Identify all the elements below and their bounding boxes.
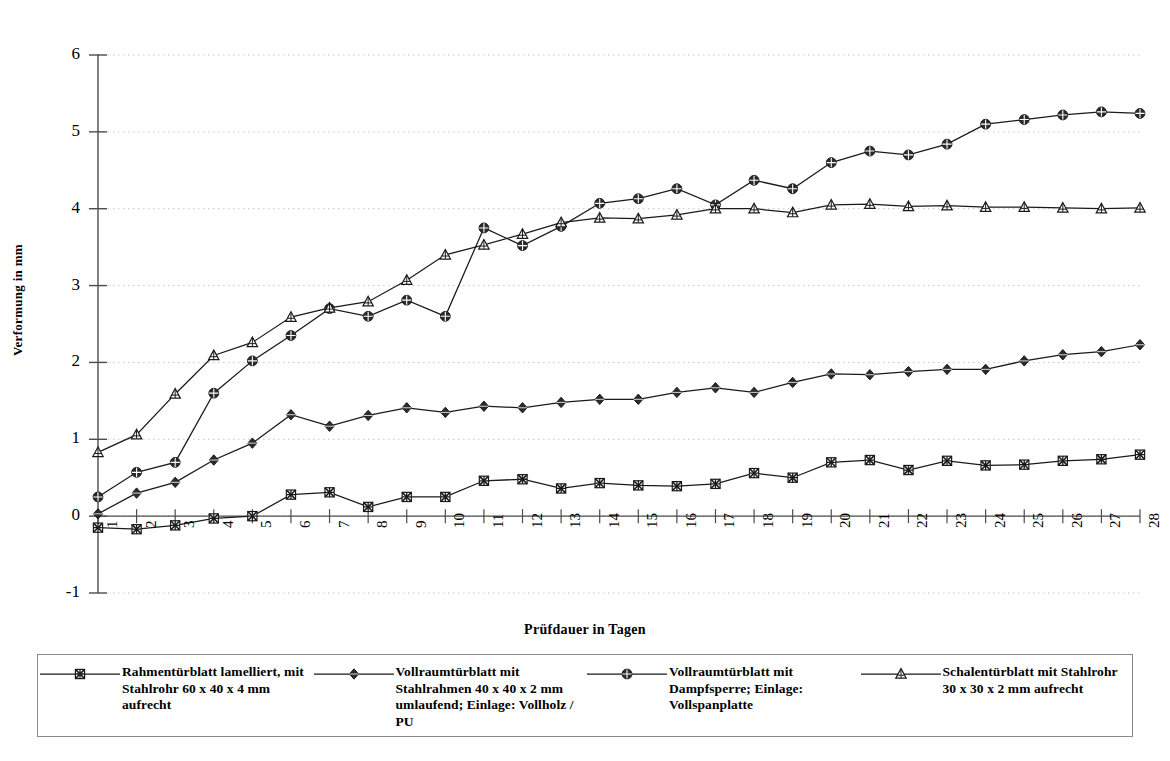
data-point-circle <box>749 175 759 185</box>
data-point-circle <box>904 150 914 160</box>
y-axis-tick-label: -1 <box>52 582 80 602</box>
data-point-diamond <box>749 387 758 397</box>
x-axis-tick-label: 11 <box>490 514 507 528</box>
data-point-diamond <box>364 410 373 420</box>
x-axis-tick-label: 1 <box>104 521 121 529</box>
data-point-square <box>479 476 488 485</box>
data-point-diamond <box>479 401 488 411</box>
data-point-circle <box>865 146 875 156</box>
data-point-circle <box>479 223 489 233</box>
data-point-square <box>325 488 334 497</box>
y-axis-tick-label: 2 <box>52 351 80 371</box>
x-axis-tick-label: 18 <box>760 513 777 528</box>
data-point-diamond <box>93 509 102 519</box>
chart-legend: Rahmentürblatt lamelliert, mit Stahlrohr… <box>37 654 1133 737</box>
x-axis-tick-label: 8 <box>374 521 391 529</box>
data-point-square <box>75 669 84 678</box>
data-point-square <box>132 525 141 534</box>
data-point-circle <box>247 356 257 366</box>
data-point-square <box>1058 456 1067 465</box>
data-point-circle <box>1097 107 1107 117</box>
legend-marker-square-icon <box>38 666 122 682</box>
x-axis-tick-label: 23 <box>953 513 970 528</box>
data-point-circle <box>363 311 373 321</box>
legend-item: Rahmentürblatt lamelliert, mit Stahlrohr… <box>38 655 312 714</box>
x-axis-tick-label: 4 <box>220 521 237 529</box>
data-point-diamond <box>672 387 681 397</box>
legend-marker-diamond-icon <box>312 666 396 682</box>
x-axis-tick-label: 21 <box>876 513 893 528</box>
data-point-circle <box>1135 109 1145 119</box>
x-axis-tick-label: 27 <box>1107 513 1124 528</box>
data-point-square <box>557 484 566 493</box>
data-point-square <box>1135 450 1144 459</box>
data-point-circle <box>132 467 142 477</box>
legend-item: Vollraumtürblatt mit Dampfsperre; Einlag… <box>585 655 859 714</box>
legend-item: Schalentürblatt mit Stahlrohr 30 x 30 x … <box>859 655 1133 697</box>
data-point-diamond <box>942 364 951 374</box>
x-axis-tick-label: 6 <box>297 521 314 529</box>
data-point-circle <box>622 669 632 679</box>
data-point-diamond <box>209 455 218 465</box>
data-point-diamond <box>865 370 874 380</box>
data-point-square <box>595 478 604 487</box>
data-point-circle <box>981 119 991 129</box>
data-point-circle <box>440 311 450 321</box>
x-axis-tick-label: 9 <box>413 521 430 529</box>
data-point-diamond <box>349 669 358 679</box>
data-point-square <box>518 475 527 484</box>
x-axis-tick-label: 17 <box>721 513 738 528</box>
data-point-square <box>1020 460 1029 469</box>
y-axis-tick-label: 1 <box>52 428 80 448</box>
data-point-diamond <box>325 421 334 431</box>
data-point-square <box>634 481 643 490</box>
data-point-diamond <box>441 407 450 417</box>
data-point-square <box>827 458 836 467</box>
x-axis-tick-label: 12 <box>529 513 546 528</box>
data-point-diamond <box>1020 356 1029 366</box>
data-point-square <box>942 456 951 465</box>
data-point-circle <box>286 331 296 341</box>
data-point-triangle <box>865 199 875 209</box>
legend-marker-circle-icon <box>585 666 669 682</box>
legend-marker-triangle-icon <box>859 666 943 682</box>
data-point-triangle <box>1135 203 1145 213</box>
data-point-diamond <box>1097 346 1106 356</box>
data-point-diamond <box>981 364 990 374</box>
data-point-circle <box>209 388 219 398</box>
data-point-triangle <box>595 213 605 223</box>
y-axis-tick-label: 6 <box>52 44 80 64</box>
x-axis-tick-label: 13 <box>567 513 584 528</box>
x-axis-tick-label: 26 <box>1069 513 1086 528</box>
series-line <box>98 204 1140 452</box>
legend-label: Rahmentürblatt lamelliert, mit Stahlrohr… <box>122 664 312 714</box>
legend-label: Schalentürblatt mit Stahlrohr 30 x 30 x … <box>943 664 1133 697</box>
data-point-circle <box>170 457 180 467</box>
x-axis-tick-label: 5 <box>258 521 275 529</box>
x-axis-tick-label: 10 <box>451 513 468 528</box>
data-point-diamond <box>402 403 411 413</box>
data-point-circle <box>633 194 643 204</box>
data-point-square <box>788 473 797 482</box>
legend-label: Vollraumtürblatt mit Dampfsperre; Einlag… <box>669 664 859 714</box>
data-point-square <box>93 523 102 532</box>
data-point-square <box>364 502 373 511</box>
data-point-square <box>749 469 758 478</box>
legend-label: Vollraumtürblatt mit Stahlrahmen 40 x 40… <box>396 664 586 730</box>
data-point-square <box>171 521 180 530</box>
y-axis-tick-label: 3 <box>52 275 80 295</box>
chart-canvas <box>0 0 1170 761</box>
y-axis-tick-label: 4 <box>52 198 80 218</box>
x-axis-tick-label: 14 <box>606 513 623 528</box>
data-point-diamond <box>595 394 604 404</box>
chart-container: Verformung in mm -10123456 1234567891011… <box>0 0 1170 761</box>
data-point-circle <box>1058 110 1068 120</box>
data-point-square <box>209 514 218 523</box>
x-axis-tick-label: 15 <box>644 513 661 528</box>
data-point-circle <box>518 241 528 251</box>
data-point-square <box>981 461 990 470</box>
data-point-diamond <box>788 377 797 387</box>
data-point-square <box>672 482 681 491</box>
data-point-triangle <box>402 275 412 285</box>
data-point-square <box>904 465 913 474</box>
